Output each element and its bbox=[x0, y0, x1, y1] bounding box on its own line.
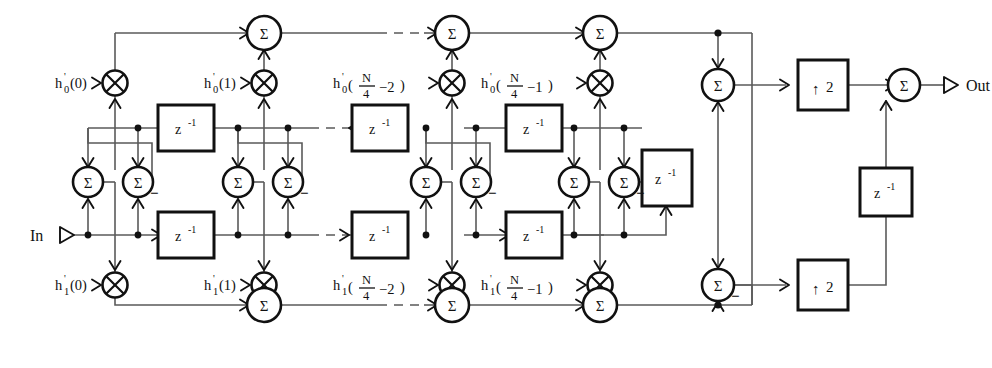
delay-block: z -1 bbox=[506, 212, 562, 258]
coef-offset: −1 bbox=[527, 79, 542, 95]
coef-denominator: 4 bbox=[363, 87, 370, 101]
paren-close: ) bbox=[400, 77, 405, 94]
sigma-glyph: Σ bbox=[134, 175, 143, 191]
coef-top-2: h 0 ' ( N 4 −2 ) bbox=[333, 71, 405, 101]
sigma-glyph: Σ bbox=[260, 298, 269, 314]
summer-butterfly-1a: Σ bbox=[223, 167, 253, 197]
summer-bottom-2: Σ bbox=[583, 288, 617, 322]
delay-exponent: -1 bbox=[536, 117, 544, 128]
sigma-glyph: Σ bbox=[472, 175, 481, 191]
input-port-icon bbox=[60, 227, 74, 243]
coef-arg: (0) bbox=[70, 277, 87, 294]
delay-label: z bbox=[655, 172, 661, 187]
coef-offset: −1 bbox=[527, 281, 542, 297]
coef-base: h bbox=[481, 75, 489, 91]
coef-base: h bbox=[333, 277, 341, 293]
coef-prime: ' bbox=[490, 273, 492, 284]
summer-butterfly-3b: Σ − bbox=[609, 167, 645, 201]
upsampler-group: ↑ 2 ↑ 2 bbox=[798, 60, 848, 310]
delay-block: z -1 bbox=[506, 105, 562, 151]
coef-sub: 1 bbox=[490, 286, 495, 297]
coef-prime: ' bbox=[213, 273, 215, 284]
coef-prime: ' bbox=[342, 273, 344, 284]
coef-numerator: N bbox=[510, 71, 519, 85]
coef-sub: 0 bbox=[213, 84, 218, 95]
coef-prime: ' bbox=[213, 71, 215, 82]
sigma-glyph: Σ bbox=[234, 175, 243, 191]
coef-sub: 1 bbox=[342, 286, 347, 297]
summer-group: Σ Σ Σ Σ Σ − Σ Σ − Σ bbox=[73, 16, 920, 322]
up-arrow-icon: ↑ bbox=[812, 281, 820, 297]
sigma-glyph: Σ bbox=[714, 78, 723, 94]
delay-exponent: -1 bbox=[382, 224, 390, 235]
minus-sign: − bbox=[731, 288, 740, 304]
summer-output-final: Σ bbox=[888, 69, 920, 101]
sigma-glyph: Σ bbox=[84, 175, 93, 191]
arrowhead-layer bbox=[83, 28, 896, 312]
sigma-glyph: Σ bbox=[570, 175, 579, 191]
coef-sub: 0 bbox=[490, 84, 495, 95]
minus-sign: − bbox=[636, 185, 645, 201]
minus-sign: − bbox=[300, 185, 309, 201]
upsample-factor: 2 bbox=[826, 279, 834, 295]
sigma-glyph: Σ bbox=[448, 298, 457, 314]
coef-numerator: N bbox=[362, 273, 371, 287]
delay-label: z bbox=[369, 122, 375, 137]
coef-base: h bbox=[204, 277, 212, 293]
delay-label: z bbox=[523, 229, 529, 244]
coef-top-3: h 0 ' ( N 4 −1 ) bbox=[481, 71, 553, 101]
upsampler-lower: ↑ 2 bbox=[798, 260, 848, 310]
coef-sub: 0 bbox=[64, 84, 69, 95]
input-label: In bbox=[30, 227, 43, 244]
delay-block-output-feedback: z -1 bbox=[860, 168, 912, 216]
diagram-canvas: z -1 z -1 z -1 z -1 z -1 z -1 bbox=[0, 0, 992, 368]
paren-close: ) bbox=[548, 77, 553, 94]
minus-sign: − bbox=[150, 185, 159, 201]
coef-arg: (1) bbox=[219, 75, 236, 92]
coef-base: h bbox=[55, 277, 63, 293]
coef-bottom-2: h 1 ' ( N 4 −2 ) bbox=[333, 273, 405, 303]
coef-top-1: h 0 ' (1) bbox=[204, 71, 236, 95]
coef-offset: −2 bbox=[379, 79, 394, 95]
coef-arg: (1) bbox=[219, 277, 236, 294]
sigma-glyph: Σ bbox=[448, 26, 457, 42]
summer-butterfly-0a: Σ bbox=[73, 167, 103, 197]
paren-close: ) bbox=[548, 279, 553, 296]
sigma-glyph: Σ bbox=[596, 26, 605, 42]
coef-bottom-3: h 1 ' ( N 4 −1 ) bbox=[481, 273, 553, 303]
coefficient-labels-top: h 0 ' (0) h 0 ' (1) h 0 ' ( N 4 −2 ) h 0 bbox=[55, 71, 553, 101]
delay-block: z -1 bbox=[158, 212, 214, 258]
delay-label: z bbox=[523, 122, 529, 137]
coef-numerator: N bbox=[510, 273, 519, 287]
sigma-glyph: Σ bbox=[596, 298, 605, 314]
coef-numerator: N bbox=[362, 71, 371, 85]
sigma-glyph: Σ bbox=[620, 175, 629, 191]
coef-top-0: h 0 ' (0) bbox=[55, 71, 87, 95]
coef-prime: ' bbox=[64, 71, 66, 82]
coef-base: h bbox=[481, 277, 489, 293]
paren-open: ( bbox=[348, 279, 353, 296]
coef-denominator: 4 bbox=[511, 87, 518, 101]
coef-sub: 1 bbox=[213, 286, 218, 297]
coef-base: h bbox=[204, 75, 212, 91]
delay-exponent: -1 bbox=[887, 181, 895, 192]
paren-close: ) bbox=[400, 279, 405, 296]
coef-denominator: 4 bbox=[511, 289, 518, 303]
paren-open: ( bbox=[496, 279, 501, 296]
summer-top-2: Σ bbox=[583, 16, 617, 50]
sigma-glyph: Σ bbox=[422, 175, 431, 191]
coef-prime: ' bbox=[490, 71, 492, 82]
summer-butterfly-0b: Σ − bbox=[123, 167, 159, 201]
coef-arg: (0) bbox=[70, 75, 87, 92]
output-label: Out bbox=[966, 77, 991, 94]
summer-top-0: Σ bbox=[247, 16, 281, 50]
delay-exponent: -1 bbox=[188, 224, 196, 235]
delay-block-butterfly-tail: z -1 bbox=[642, 150, 692, 206]
delay-exponent: -1 bbox=[188, 117, 196, 128]
summer-butterfly-3a: Σ bbox=[559, 167, 589, 197]
coef-prime: ' bbox=[64, 273, 66, 284]
summer-butterfly-2a: Σ bbox=[411, 167, 441, 197]
summer-butterfly-1b: Σ − bbox=[273, 167, 309, 201]
coef-base: h bbox=[55, 75, 63, 91]
paren-open: ( bbox=[348, 77, 353, 94]
